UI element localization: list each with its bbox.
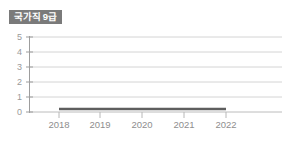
line-chart-svg: 5 4 3 2 1 0 2018 2019 2020 20 [0,0,288,149]
chart-plot-area: 5 4 3 2 1 0 2018 2019 2020 20 [0,0,288,149]
y-axis-label-1: 1 [17,92,22,102]
chart-card: 국가직 9급 5 4 3 [0,0,288,149]
y-axis-label-3: 3 [17,62,22,72]
x-axis-label-2018: 2018 [48,119,69,130]
y-axis-label-4: 4 [17,47,22,57]
y-axis-group [26,36,33,113]
y-axis-labels: 5 4 3 2 1 0 [17,32,22,117]
y-axis-label-2: 2 [17,77,22,87]
x-axis-label-2021: 2021 [173,119,194,130]
y-axis-label-0: 0 [17,107,22,117]
y-axis-label-5: 5 [17,32,22,42]
x-axis-label-2020: 2020 [131,119,152,130]
gridlines-group [29,37,282,112]
x-axis-ticks [59,112,226,118]
x-axis-labels: 2018 2019 2020 2021 2022 [48,119,236,130]
x-axis-label-2022: 2022 [215,119,236,130]
x-axis-label-2019: 2019 [89,119,110,130]
